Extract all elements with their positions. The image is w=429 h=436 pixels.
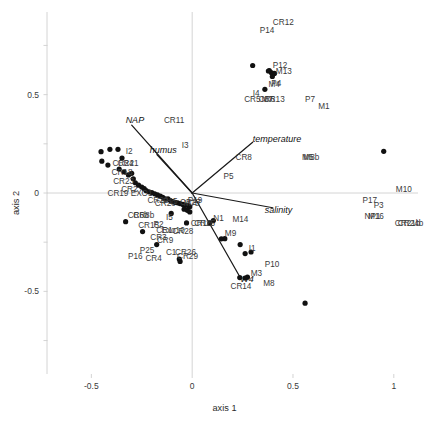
data-point-marker xyxy=(243,251,248,256)
x-tick-label: -0.5 xyxy=(77,382,105,391)
point-label-cr8: CR8 xyxy=(236,154,252,162)
point-label-cr25: CR25 xyxy=(194,220,215,228)
point-label-cr14: CR14 xyxy=(230,283,251,291)
point-label-m13: M13 xyxy=(276,68,292,76)
point-label-m9: M9 xyxy=(225,230,236,238)
point-label-p5: P5 xyxy=(223,173,233,181)
point-label-m14: M14 xyxy=(233,216,249,224)
point-label-m8b: M8b xyxy=(303,154,319,162)
data-point-marker xyxy=(98,149,103,154)
data-point-marker xyxy=(381,149,386,154)
env-vector-salinity xyxy=(192,193,273,208)
point-label-cr13: CR13 xyxy=(264,96,285,104)
point-label-cr28: CR28 xyxy=(172,228,193,236)
axis-ticks xyxy=(44,12,394,378)
x-tick-label: 0 xyxy=(178,382,206,391)
data-point-marker xyxy=(219,236,224,241)
data-point-marker xyxy=(187,209,192,214)
y-axis-title: axis 2 xyxy=(12,191,21,215)
y-tick-label: -0.5 xyxy=(0,287,39,296)
data-point-marker xyxy=(184,220,189,225)
y-tick-label: 0.5 xyxy=(0,91,39,100)
point-label-cr11: CR11 xyxy=(164,117,184,125)
point-label-cr9: CR9 xyxy=(157,237,173,245)
point-label-i5: I5 xyxy=(166,214,173,222)
point-label-m1: M1 xyxy=(318,103,329,111)
data-point-marker xyxy=(105,162,110,167)
point-label-p10: P10 xyxy=(265,261,280,269)
point-label-i2: I2 xyxy=(126,148,133,156)
point-label-p7: P7 xyxy=(305,96,315,104)
data-point-marker xyxy=(262,87,267,92)
data-point-marker xyxy=(267,68,272,73)
point-label-m10: M10 xyxy=(396,186,412,194)
point-label-i3: I3 xyxy=(182,142,189,150)
ordination-biplot: CR12P14P12M13M4P4I4CR5CR6M7CR13P7M1NAPCR… xyxy=(0,0,429,436)
point-label-cr19: CR19 xyxy=(107,190,128,198)
point-label-p16: P16 xyxy=(128,253,143,261)
point-label-cr4: CR4 xyxy=(145,255,161,263)
data-point-marker xyxy=(250,63,255,68)
data-point-marker xyxy=(302,301,307,306)
point-label-m3: M3 xyxy=(251,270,262,278)
env-label-temperature: temperature xyxy=(253,135,302,144)
data-point-marker xyxy=(107,147,112,152)
data-point-marker xyxy=(115,147,120,152)
point-label-p3: P3 xyxy=(374,202,384,210)
point-label-p4: P4 xyxy=(271,80,281,88)
data-point-marker xyxy=(99,159,104,164)
point-label-cr29: CR29 xyxy=(177,253,198,261)
grid-lines xyxy=(47,12,418,374)
env-vector-temperature xyxy=(192,142,252,193)
x-tick-label: 0.5 xyxy=(279,382,307,391)
point-label-cr24b: CR24b xyxy=(398,220,424,228)
point-label-m7b: M7b xyxy=(184,200,200,208)
env-label-humus: humus xyxy=(150,146,177,155)
point-label-m8: M8 xyxy=(263,280,274,288)
point-label-cr20: CR20 xyxy=(155,200,176,208)
env-label-nap: NAP xyxy=(126,116,145,125)
data-point-marker xyxy=(238,242,243,247)
data-point-markers xyxy=(98,63,386,306)
point-label-i1: I1 xyxy=(249,245,256,253)
x-axis-title: axis 1 xyxy=(213,404,237,413)
point-label-cr12: CR12 xyxy=(273,19,294,27)
point-label-m16: M16 xyxy=(368,213,384,221)
point-label-cr8b: CR8b xyxy=(133,212,154,220)
x-tick-label: 1 xyxy=(380,382,408,391)
env-label-salinity: salinity xyxy=(265,206,293,215)
env-vector-humus xyxy=(157,155,192,193)
data-point-marker xyxy=(123,219,128,224)
point-label-p14: P14 xyxy=(260,27,275,35)
